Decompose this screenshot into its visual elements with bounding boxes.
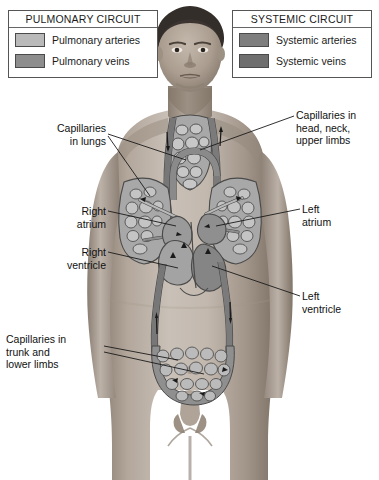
label-left-ventricle: Left ventricle [302, 290, 374, 315]
circulatory-system-diagram: PULMONARY CIRCUIT Pulmonary arteries Pul… [0, 0, 379, 480]
legend-pulmonary-circuit: PULMONARY CIRCUIT Pulmonary arteries Pul… [8, 10, 158, 78]
legend-systemic-circuit: SYSTEMIC CIRCUIT Systemic arteries Syste… [232, 10, 372, 78]
legend-systemic-title: SYSTEMIC CIRCUIT [233, 11, 371, 28]
legend-pulmonary-rows: Pulmonary arteries Pulmonary veins [9, 28, 157, 68]
legend-row-pulmonary-arteries: Pulmonary arteries [15, 33, 153, 47]
legend-label-systemic-veins: Systemic veins [276, 55, 346, 67]
legend-pulmonary-title: PULMONARY CIRCUIT [9, 11, 157, 28]
label-capillaries-trunk-lower-limbs: Capillaries in trunk and lower limbs [6, 333, 102, 371]
legend-systemic-rows: Systemic arteries Systemic veins [233, 28, 371, 68]
swatch-pulmonary-veins [15, 54, 45, 68]
label-right-ventricle: Right ventricle [24, 246, 106, 271]
legend-row-systemic-arteries: Systemic arteries [239, 33, 367, 47]
swatch-systemic-veins [239, 54, 269, 68]
legend-label-pulmonary-veins: Pulmonary veins [52, 55, 130, 67]
legend-row-pulmonary-veins: Pulmonary veins [15, 54, 153, 68]
label-capillaries-head-neck-upper-limbs: Capillaries in head, neck, upper limbs [296, 109, 376, 147]
legend-row-systemic-veins: Systemic veins [239, 54, 367, 68]
label-right-atrium: Right atrium [24, 205, 106, 230]
swatch-pulmonary-arteries [15, 33, 45, 47]
legend-label-systemic-arteries: Systemic arteries [276, 34, 357, 46]
legend-label-pulmonary-arteries: Pulmonary arteries [52, 34, 140, 46]
label-capillaries-in-lungs: Capillaries in lungs [20, 122, 106, 147]
label-left-atrium: Left atrium [302, 203, 374, 228]
swatch-systemic-arteries [239, 33, 269, 47]
